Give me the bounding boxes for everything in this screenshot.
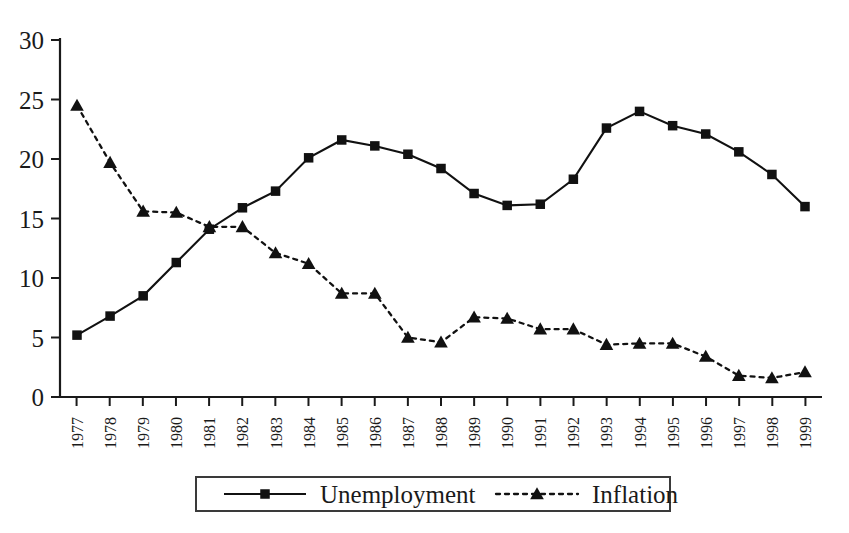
chart-series-group [70, 99, 812, 384]
data-point-unemployment-1983 [271, 186, 281, 196]
data-point-inflation-1977 [70, 99, 84, 111]
data-point-unemployment-1994 [635, 107, 645, 117]
data-point-unemployment-1992 [569, 174, 579, 184]
data-point-unemployment-1991 [536, 199, 546, 209]
data-point-inflation-1996 [699, 350, 713, 362]
data-point-unemployment-1977 [72, 330, 82, 340]
data-point-unemployment-1997 [734, 147, 744, 157]
x-axis-tick-label: 1993 [598, 417, 615, 449]
x-axis-tick-label: 1986 [367, 417, 384, 449]
x-axis-tick-label: 1989 [466, 417, 483, 449]
data-point-inflation-1999 [798, 365, 812, 377]
data-point-unemployment-1979 [138, 291, 148, 301]
x-axis-tick-label: 1995 [665, 417, 682, 449]
legend-label-unemployment: Unemployment [320, 481, 476, 508]
data-point-unemployment-1996 [701, 129, 711, 139]
x-axis-tick-label: 1987 [400, 417, 417, 449]
x-axis-tick-label: 1992 [565, 417, 582, 449]
x-axis-tick-label: 1981 [201, 417, 218, 449]
data-point-unemployment-1999 [800, 202, 810, 212]
legend-label-inflation: Inflation [592, 481, 679, 508]
x-axis-tick-label: 1977 [69, 417, 86, 449]
data-point-unemployment-1993 [602, 123, 612, 133]
data-point-unemployment-1995 [668, 121, 678, 130]
data-point-unemployment-1990 [502, 201, 512, 211]
x-axis-tick-label: 1978 [102, 417, 119, 449]
data-point-inflation-1993 [600, 338, 614, 350]
chart-legend: UnemploymentInflation [196, 477, 679, 511]
y-axis-tick-label: 0 [32, 384, 45, 411]
line-chart: 051015202530 197719781979198019811982198… [0, 0, 849, 533]
y-axis-tick-label: 30 [19, 27, 44, 54]
data-point-unemployment-1984 [304, 153, 314, 163]
data-point-inflation-1986 [368, 287, 382, 299]
y-axis-tick-label: 15 [19, 206, 44, 233]
data-point-inflation-1982 [236, 220, 250, 232]
x-axis-tick-label: 1982 [234, 417, 251, 449]
x-axis: 1977197819791980198119821983198419851986… [60, 397, 822, 449]
x-axis-tick-label: 1996 [698, 417, 715, 449]
data-point-inflation-1987 [401, 331, 415, 343]
data-point-inflation-1978 [103, 156, 117, 168]
y-axis-tick-label: 20 [19, 146, 44, 173]
legend-marker-square [260, 489, 270, 499]
data-point-unemployment-1989 [469, 189, 479, 199]
data-point-unemployment-1988 [436, 164, 446, 174]
x-axis-tick-label: 1998 [764, 417, 781, 449]
y-axis: 051015202530 [19, 27, 60, 411]
x-axis-tick-label: 1994 [632, 417, 649, 449]
data-point-unemployment-1987 [403, 149, 413, 159]
x-axis-tick-label: 1984 [301, 417, 318, 449]
x-axis-tick-label: 1988 [433, 417, 450, 449]
chart-container: 051015202530 197719781979198019811982198… [0, 0, 849, 533]
data-point-unemployment-1998 [767, 170, 777, 180]
data-point-unemployment-1986 [370, 141, 380, 151]
x-axis-tick-label: 1980 [168, 417, 185, 449]
y-axis-tick-label: 5 [32, 325, 45, 352]
x-axis-tick-label: 1983 [268, 417, 285, 449]
x-axis-tick-label: 1979 [135, 417, 152, 449]
x-axis-tick-label: 1991 [532, 417, 549, 449]
x-axis-tick-label: 1999 [797, 417, 814, 449]
x-axis-tick-label: 1990 [499, 417, 516, 449]
data-point-inflation-1992 [567, 322, 581, 334]
data-point-unemployment-1978 [105, 311, 115, 321]
x-axis-tick-label: 1985 [334, 417, 351, 449]
y-axis-tick-label: 10 [19, 265, 44, 292]
y-axis-tick-label: 25 [19, 87, 44, 114]
data-point-unemployment-1985 [337, 135, 347, 145]
series-line-unemployment [77, 111, 805, 335]
x-axis-tick-label: 1997 [731, 417, 748, 449]
data-point-unemployment-1980 [172, 258, 182, 268]
data-point-unemployment-1982 [238, 203, 248, 213]
